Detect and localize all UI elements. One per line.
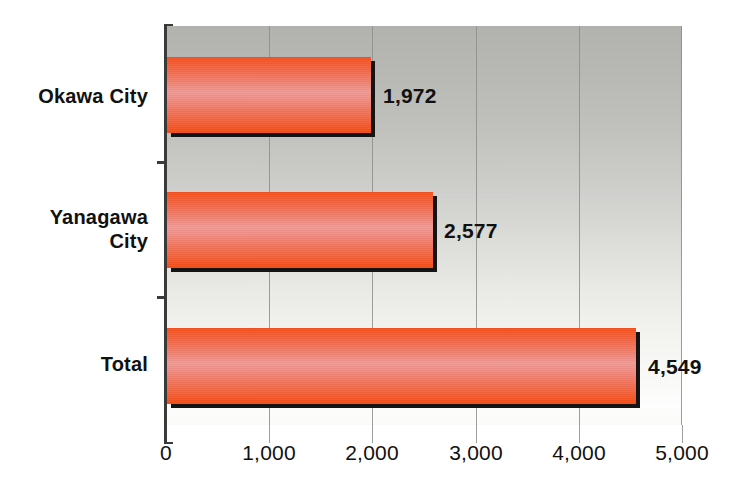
bar-total[interactable] — [167, 328, 636, 404]
category-label-okawa-city: Okawa City — [38, 84, 148, 108]
bar-okawa-city[interactable] — [167, 57, 371, 133]
xtick-label-5000: 5,000 — [637, 441, 727, 465]
category-label-total: Total — [101, 352, 148, 376]
value-label-yanagawa-city: 2,577 — [444, 219, 498, 243]
y-axis-top-cap — [164, 24, 173, 26]
xtick-label-3000: 3,000 — [431, 441, 521, 465]
category-label-yanagawa-city: Yanagawa City — [50, 205, 148, 254]
bar-texture — [167, 57, 371, 133]
value-label-total: 4,549 — [648, 355, 702, 379]
y-axis-tick-2 — [157, 296, 166, 299]
xtick-label-1000: 1,000 — [224, 441, 314, 465]
y-axis-tick-1 — [157, 161, 166, 164]
xtick-label-2000: 2,000 — [327, 441, 417, 465]
value-label-okawa-city: 1,972 — [383, 84, 437, 108]
bar-yanagawa-city[interactable] — [167, 192, 433, 268]
bar-texture — [167, 192, 433, 268]
xtick-label-0: 0 — [121, 441, 211, 465]
xtick-label-4000: 4,000 — [534, 441, 624, 465]
bar-texture — [167, 328, 636, 404]
bar-chart: 1,972 2,577 4,549 Okawa City Yanagawa Ci… — [0, 0, 734, 500]
